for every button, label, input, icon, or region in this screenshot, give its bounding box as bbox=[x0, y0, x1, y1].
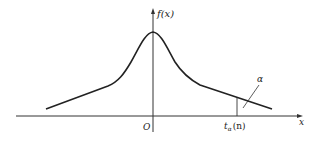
quantile-label-subscript: α bbox=[228, 125, 232, 132]
t-distribution-diagram: f(x) x O α tα(n) bbox=[0, 0, 315, 143]
y-axis-arrow-icon bbox=[151, 8, 155, 14]
tail-area-label: α bbox=[257, 74, 263, 84]
origin-label: O bbox=[143, 122, 151, 132]
x-axis-label: x bbox=[299, 117, 304, 127]
quantile-label-argument: (n) bbox=[233, 121, 246, 131]
y-axis-label: f(x) bbox=[156, 8, 174, 19]
density-curve bbox=[46, 32, 272, 109]
quantile-label: tα(n) bbox=[224, 121, 246, 132]
